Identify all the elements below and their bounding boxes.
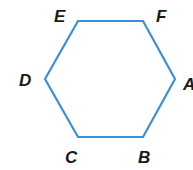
hexagon-shape: [45, 21, 175, 137]
vertex-label-a: A: [182, 75, 193, 94]
vertex-label-e: E: [54, 7, 66, 26]
hexagon-diagram: E F D A C B: [0, 0, 193, 170]
vertex-label-c: C: [65, 148, 78, 167]
vertex-label-b: B: [138, 148, 150, 167]
vertex-label-f: F: [156, 7, 167, 26]
vertex-label-d: D: [19, 71, 31, 90]
